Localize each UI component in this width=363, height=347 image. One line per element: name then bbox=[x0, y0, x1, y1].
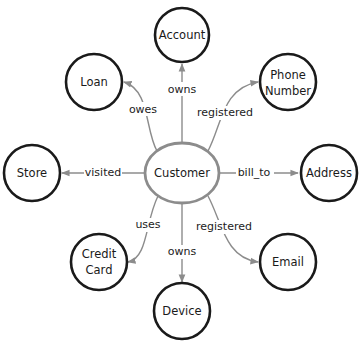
edge-label: uses bbox=[135, 218, 160, 231]
edge-label: owns bbox=[168, 245, 197, 258]
node-address[interactable]: Address bbox=[301, 145, 357, 201]
edge-label: visited bbox=[85, 166, 121, 179]
svg-text:Address: Address bbox=[306, 166, 352, 180]
node-email[interactable]: Email bbox=[260, 234, 316, 290]
svg-text:Number: Number bbox=[265, 84, 311, 98]
node-loan[interactable]: Loan bbox=[66, 54, 122, 110]
edge-label: bill_to bbox=[238, 166, 271, 179]
svg-text:Email: Email bbox=[272, 255, 304, 269]
svg-text:Card: Card bbox=[86, 263, 113, 277]
edge-label: owes bbox=[129, 103, 157, 116]
edge-owes-loan bbox=[124, 82, 157, 151]
edge-label: registered bbox=[197, 106, 253, 119]
svg-text:Store: Store bbox=[17, 166, 47, 180]
node-credit-card[interactable]: Credit Card bbox=[71, 234, 127, 290]
edge-label: registered bbox=[196, 220, 252, 233]
svg-text:Credit: Credit bbox=[82, 247, 117, 261]
svg-text:Device: Device bbox=[162, 304, 201, 318]
svg-text:Loan: Loan bbox=[80, 75, 108, 89]
svg-text:Phone: Phone bbox=[270, 68, 306, 82]
graph-diagram: owns owes registered visited bill_to use… bbox=[0, 0, 363, 347]
edge-label: owns bbox=[168, 83, 197, 96]
node-device[interactable]: Device bbox=[154, 283, 210, 339]
node-customer[interactable]: Customer bbox=[145, 143, 219, 203]
svg-text:Account: Account bbox=[159, 28, 206, 42]
node-phone-number[interactable]: Phone Number bbox=[260, 54, 316, 110]
node-store[interactable]: Store bbox=[4, 145, 60, 201]
svg-text:Customer: Customer bbox=[154, 166, 210, 180]
node-account[interactable]: Account bbox=[155, 8, 209, 62]
